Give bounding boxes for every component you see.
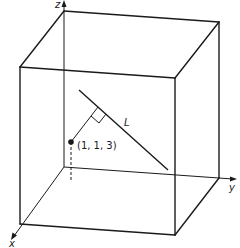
- point-label: (1, 1, 3): [77, 140, 117, 151]
- y-axis: [64, 167, 237, 182]
- x-axis-label: x: [8, 238, 15, 248]
- x-axis: [11, 167, 64, 240]
- line-l-label: L: [124, 117, 130, 128]
- y-axis-label: y: [228, 182, 236, 193]
- point-marker: [68, 139, 74, 145]
- z-axis: [62, 0, 67, 167]
- cube: [20, 11, 219, 235]
- z-axis-label: z: [54, 0, 61, 10]
- line-l: [79, 90, 168, 170]
- perpendicular-segment: [71, 107, 98, 142]
- cube-diagram: z y x: [0, 0, 240, 248]
- right-angle-marker: [91, 114, 106, 123]
